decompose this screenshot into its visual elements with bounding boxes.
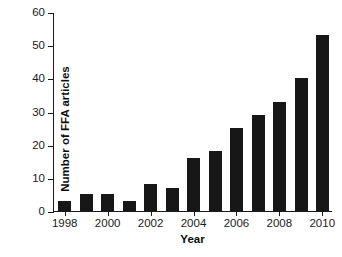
bar: [58, 201, 71, 211]
bar: [166, 188, 179, 211]
bar-series: [54, 13, 332, 211]
x-axis-tick: [65, 211, 66, 216]
y-axis-tick-label: 0: [39, 206, 45, 218]
y-axis-tick: [48, 146, 54, 147]
x-axis-tick: [108, 211, 109, 216]
x-axis-tick-label: 2000: [95, 218, 121, 230]
x-axis-tick-label: 1998: [52, 218, 78, 230]
bar: [144, 184, 157, 211]
y-axis-tick-label: 60: [32, 7, 45, 19]
y-axis-tick-label: 10: [32, 173, 45, 185]
bar: [101, 194, 114, 211]
x-axis-tick-label: 2004: [181, 218, 207, 230]
y-axis-tick-label: 40: [32, 74, 45, 86]
bar: [80, 194, 93, 211]
y-axis-tick: [48, 79, 54, 80]
bar: [209, 151, 222, 211]
y-axis-tick: [48, 46, 54, 47]
x-axis-tick-label: 2010: [309, 218, 335, 230]
x-axis-tick-label: 2006: [224, 218, 250, 230]
bar: [187, 158, 200, 211]
y-axis-tick-label: 50: [32, 40, 45, 52]
y-axis-tick: [48, 212, 54, 213]
x-axis-tick: [236, 211, 237, 216]
bar: [316, 35, 329, 211]
x-axis-tick: [151, 211, 152, 216]
x-axis-tick: [322, 211, 323, 216]
y-axis-tick: [48, 179, 54, 180]
plot-area: 0102030405060 19982000200220042006200820…: [53, 13, 332, 212]
y-axis-tick: [48, 113, 54, 114]
x-axis-title: Year: [53, 233, 332, 245]
y-axis-tick-label: 20: [32, 140, 45, 152]
bar: [230, 128, 243, 211]
x-axis-tick: [279, 211, 280, 216]
x-axis-tick-label: 2008: [267, 218, 293, 230]
x-axis-tick: [194, 211, 195, 216]
bar: [295, 78, 308, 211]
bar: [252, 115, 265, 211]
y-axis-tick: [48, 13, 54, 14]
bar-chart: Number of FFA articles 0102030405060 199…: [0, 0, 342, 257]
bar: [123, 201, 136, 211]
x-axis-tick-label: 2002: [138, 218, 164, 230]
bar: [273, 102, 286, 211]
y-axis-tick-label: 30: [32, 107, 45, 119]
